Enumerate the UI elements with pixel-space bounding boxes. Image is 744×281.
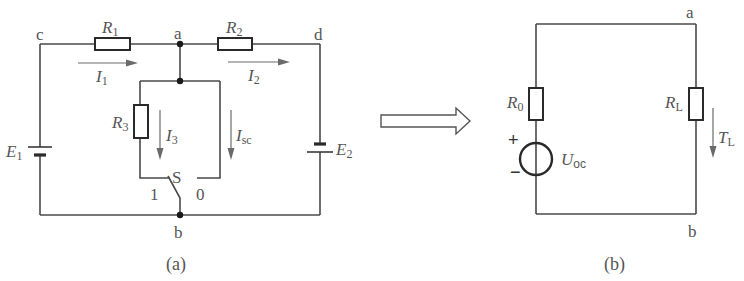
source-plus-sign: + xyxy=(508,130,519,150)
resistor-r3 xyxy=(134,105,148,138)
label-i3: I3 xyxy=(165,126,178,147)
label-r1: R1 xyxy=(101,18,118,39)
label-r3: R3 xyxy=(111,113,128,134)
resistor-rl xyxy=(689,88,703,120)
label-rl: RL xyxy=(664,93,683,114)
node-label-d: d xyxy=(314,25,323,44)
label-uoc: Uoc xyxy=(561,150,586,171)
caption-a: (a) xyxy=(166,254,186,275)
node-label-c: c xyxy=(36,25,44,44)
switch-position-0: 0 xyxy=(196,185,205,204)
node-label-b-b: b xyxy=(688,222,697,241)
node-label-a: a xyxy=(174,24,182,43)
wire-isc-branch xyxy=(197,81,220,178)
current-arrow-tl xyxy=(710,108,717,158)
switch-label-s: S xyxy=(172,168,181,187)
battery-e2 xyxy=(307,144,333,152)
label-r0: R0 xyxy=(506,93,523,114)
switch-position-1: 1 xyxy=(150,185,159,204)
node-junction-dot xyxy=(177,78,183,84)
label-tl: TL xyxy=(718,128,735,149)
resistor-r1 xyxy=(95,38,130,50)
current-arrow-isc xyxy=(228,110,235,160)
current-arrow-i3 xyxy=(157,110,164,160)
node-label-a-b: a xyxy=(686,3,694,22)
label-e2: E2 xyxy=(335,140,352,161)
current-arrow-i1 xyxy=(78,60,138,67)
label-e1: E1 xyxy=(5,142,22,163)
node-b-dot xyxy=(177,212,183,218)
resistor-r0 xyxy=(529,88,543,120)
label-i2: I2 xyxy=(247,66,260,87)
label-isc: Isc xyxy=(235,126,252,147)
current-arrow-i2 xyxy=(228,59,290,66)
right-arrow-icon xyxy=(381,108,470,134)
label-i1: I1 xyxy=(95,67,108,88)
node-label-b: b xyxy=(174,223,183,242)
caption-b: (b) xyxy=(604,254,625,275)
resistor-r2 xyxy=(218,38,252,50)
battery-e1 xyxy=(28,147,52,155)
figure-a: c a d b R1 R2 R3 E1 E2 I1 I2 I3 Isc S 1 … xyxy=(5,18,352,275)
source-minus-sign: − xyxy=(510,162,521,182)
label-r2: R2 xyxy=(225,18,242,39)
figure-b: a b R0 RL + − Uoc TL (b) xyxy=(506,3,735,275)
circuit-diagram: c a d b R1 R2 R3 E1 E2 I1 I2 I3 Isc S 1 … xyxy=(0,0,744,281)
